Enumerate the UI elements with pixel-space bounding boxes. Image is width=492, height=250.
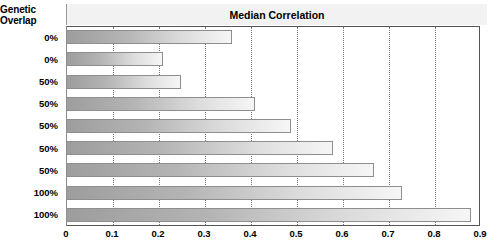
x-axis-tick-label: 0.8 [427,228,440,239]
category-column-header: Genetic Overlap [0,4,62,25]
chart-header: Genetic Overlap Median Correlation [0,4,492,25]
bar [66,163,374,177]
median-correlation-bar-chart: Genetic Overlap Median Correlation 0%0%5… [0,0,492,250]
x-axis-labels: 00.10.20.30.40.50.60.70.80.9 [66,228,480,244]
x-axis-tick-label: 0 [63,228,68,239]
bar-row [66,70,480,92]
bar [66,186,402,200]
bar [66,141,333,155]
y-axis-tick-label: 50% [0,70,58,92]
bar-row [66,26,480,48]
bar [66,119,291,133]
x-axis-tick-label: 0.3 [197,228,210,239]
bar-row [66,159,480,181]
x-axis-tick-label: 0.7 [381,228,394,239]
bar [66,52,163,66]
y-axis-tick-label: 50% [0,93,58,115]
bar-series [66,26,480,226]
bar [66,75,181,89]
y-axis-tick-label: 100% [0,204,58,226]
y-axis-tick-label: 0% [0,48,58,70]
x-axis-tick-label: 0.5 [289,228,302,239]
y-axis-tick-label: 50% [0,115,58,137]
y-axis-labels: 0%0%50%50%50%50%50%100%100% [0,26,58,226]
x-axis-tick-label: 0.2 [151,228,164,239]
chart-title: Median Correlation [66,4,487,25]
y-axis-tick-label: 50% [0,137,58,159]
x-axis-tick-label: 0.9 [473,228,486,239]
bar [66,30,232,44]
bar-row [66,48,480,70]
y-axis-tick-label: 0% [0,26,58,48]
bar-row [66,115,480,137]
bar-row [66,93,480,115]
bar [66,208,471,222]
y-axis-tick-label: 100% [0,182,58,204]
bar-row [66,182,480,204]
y-axis-tick-label: 50% [0,159,58,181]
bar-row [66,204,480,226]
x-axis-tick-label: 0.4 [243,228,256,239]
bar-row [66,137,480,159]
x-axis-tick-label: 0.1 [105,228,118,239]
x-axis-tick-label: 0.6 [335,228,348,239]
bar [66,97,255,111]
